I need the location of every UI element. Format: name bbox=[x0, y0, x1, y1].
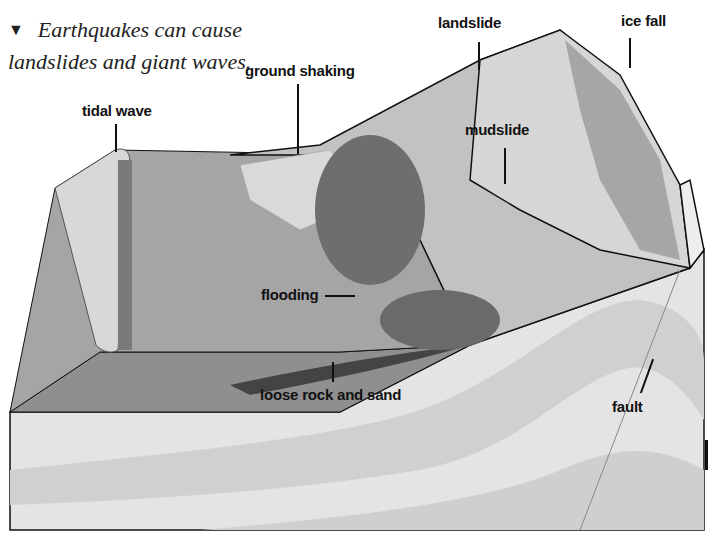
pointer-flooding bbox=[325, 295, 355, 297]
label-mudslide: mudslide bbox=[465, 121, 529, 138]
earthquake-illustration bbox=[0, 0, 710, 533]
label-ground-shaking: ground shaking bbox=[245, 62, 355, 79]
pointer-landslide bbox=[478, 42, 480, 70]
label-loose-rock-and-sand: loose rock and sand bbox=[260, 386, 401, 403]
pointer-tidal-wave bbox=[115, 124, 117, 152]
page-edge-mark bbox=[705, 440, 708, 470]
wave-trough bbox=[118, 160, 132, 350]
forest bbox=[380, 290, 500, 350]
label-tidal-wave: tidal wave bbox=[82, 102, 152, 119]
pointer-loose-rock bbox=[332, 362, 334, 382]
label-fault: fault bbox=[612, 398, 643, 415]
forest bbox=[315, 135, 425, 285]
pointer-mudslide bbox=[504, 148, 506, 184]
label-landslide: landslide bbox=[438, 14, 501, 31]
pointer-ground-shaking bbox=[297, 84, 299, 154]
label-flooding: flooding bbox=[261, 286, 319, 303]
label-ice-fall: ice fall bbox=[621, 12, 666, 29]
pointer-ice-fall bbox=[629, 38, 631, 68]
